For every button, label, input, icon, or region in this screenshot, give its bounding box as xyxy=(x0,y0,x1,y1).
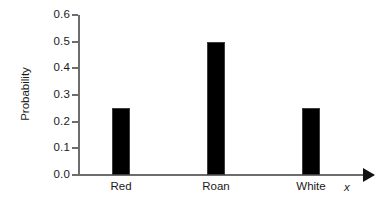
y-axis-tick-label-text: 0.6 xyxy=(42,9,70,21)
category-label-red: Red xyxy=(81,180,161,192)
x-axis-variable-label: x xyxy=(344,181,350,193)
bar-white xyxy=(302,108,320,175)
y-axis-tick-label: 0.5 xyxy=(42,36,70,48)
y-axis-tick-label-text: 0.2 xyxy=(42,116,70,128)
bar-roan xyxy=(207,42,225,175)
y-axis-tick-label-text: 0.4 xyxy=(42,62,70,74)
bar-red xyxy=(112,108,130,175)
x-axis-arrow-icon xyxy=(363,168,375,182)
y-axis-tick-label: 0.0 xyxy=(42,169,70,181)
y-axis-tick-label-text: 0.3 xyxy=(42,89,70,101)
y-axis-tick-label-text: 0.5 xyxy=(42,36,70,48)
category-label-roan: Roan xyxy=(176,180,256,192)
bar-chart: Probability 0.00.10.20.30.40.50.6 RedRoa… xyxy=(0,0,389,203)
y-axis-tick-label-text: 0.1 xyxy=(42,142,70,154)
y-axis-title: Probability xyxy=(19,44,31,144)
y-axis-tick-label-text: 0.0 xyxy=(42,169,70,181)
y-axis-tick-label: 0.4 xyxy=(42,62,70,74)
y-axis-tick-label: 0.1 xyxy=(42,142,70,154)
y-axis-tick-label: 0.6 xyxy=(42,9,70,21)
y-axis-tick-label: 0.3 xyxy=(42,89,70,101)
y-axis-line xyxy=(78,15,80,176)
category-label-white: White xyxy=(271,180,351,192)
y-axis-tick-label: 0.2 xyxy=(42,116,70,128)
